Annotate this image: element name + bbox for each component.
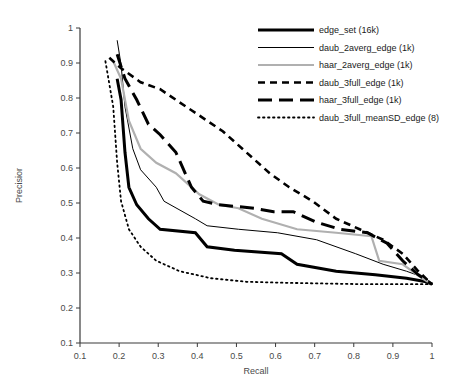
y-tick-label: 0.9 — [60, 58, 73, 68]
y-tick-label: 0.8 — [60, 93, 73, 103]
y-tick-label: 0.3 — [60, 268, 73, 278]
precision-recall-chart: 0.10.20.30.40.50.60.70.80.910.10.20.30.4… — [0, 0, 449, 383]
y-tick-label: 0.7 — [60, 128, 73, 138]
x-tick-label: 0.4 — [191, 351, 204, 361]
series-line-1 — [117, 40, 432, 284]
x-tick-label: 0.1 — [74, 351, 87, 361]
x-tick-label: 0.5 — [230, 351, 243, 361]
x-tick-label: 0.8 — [348, 351, 361, 361]
y-tick-label: 1 — [68, 23, 73, 33]
y-tick-label: 0.1 — [60, 338, 73, 348]
y-tick-label: 0.6 — [60, 163, 73, 173]
y-axis-title: Precisior — [14, 168, 24, 203]
legend-label-5: daub_3full_meanSD_edge (8) — [319, 113, 439, 123]
x-axis-title: Recall — [243, 366, 268, 376]
y-tick-label: 0.2 — [60, 303, 73, 313]
x-tick-label: 1 — [429, 351, 434, 361]
series-line-3 — [109, 58, 432, 284]
x-tick-label: 0.2 — [113, 351, 126, 361]
chart-canvas: 0.10.20.30.40.50.60.70.80.910.10.20.30.4… — [0, 0, 449, 383]
x-tick-label: 0.3 — [152, 351, 165, 361]
series-line-0 — [117, 79, 432, 284]
legend-label-3: daub_3full_edge (1k) — [319, 78, 404, 88]
legend-label-2: haar_2averg_edge (1k) — [319, 60, 413, 70]
legend-label-0: edge_set (16k) — [319, 25, 379, 35]
x-tick-label: 0.7 — [308, 351, 321, 361]
x-tick-label: 0.6 — [269, 351, 282, 361]
legend-label-1: daub_2averg_edge (1k) — [319, 43, 415, 53]
y-tick-label: 0.5 — [60, 198, 73, 208]
x-tick-label: 0.9 — [387, 351, 400, 361]
series-line-4 — [117, 54, 432, 284]
y-tick-label: 0.4 — [60, 233, 73, 243]
legend-label-4: haar_3full_edge (1k) — [319, 95, 402, 105]
